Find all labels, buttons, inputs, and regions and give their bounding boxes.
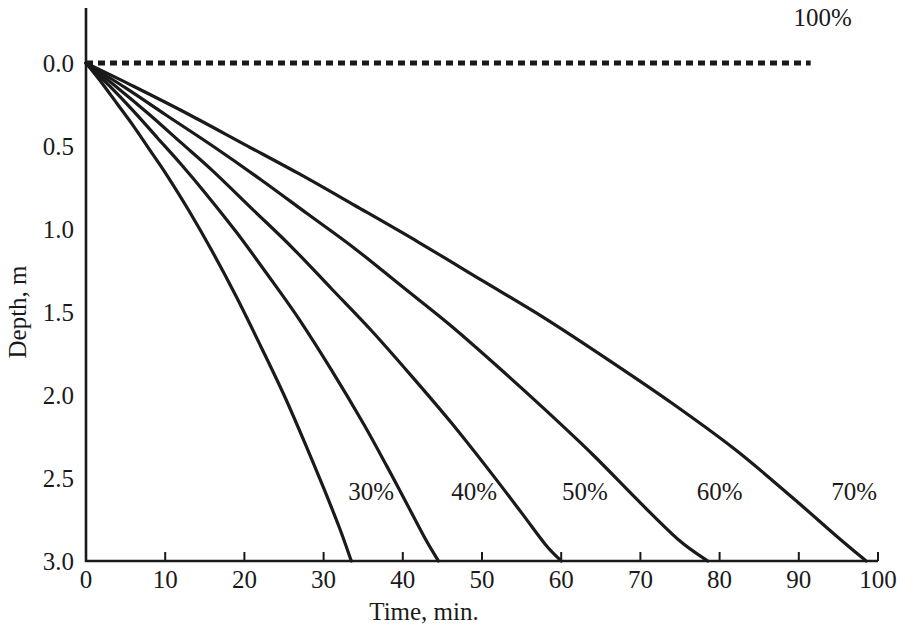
x-axis-ticks	[165, 552, 878, 561]
y-tick-label: 0.5	[43, 133, 74, 160]
chart-page: 0102030405060708090100 0.00.51.01.52.02.…	[0, 0, 914, 636]
x-tick-label: 50	[470, 566, 495, 593]
series-annotations: 30%40%50%60%70%100%	[348, 4, 877, 506]
x-tick-label: 90	[786, 566, 811, 593]
y-tick-label: 1.5	[43, 299, 74, 326]
curve-30pct	[86, 63, 351, 561]
x-tick-label: 80	[707, 566, 732, 593]
series-label-70pct: 70%	[831, 478, 877, 505]
x-tick-label: 60	[549, 566, 574, 593]
series-label-50pct: 50%	[562, 478, 608, 505]
x-axis-tick-labels: 0102030405060708090100	[80, 566, 897, 593]
y-tick-label: 1.0	[43, 216, 74, 243]
y-tick-label: 3.0	[43, 548, 74, 575]
depth-vs-time-chart: 0102030405060708090100 0.00.51.01.52.02.…	[0, 0, 914, 636]
y-tick-label: 2.0	[43, 382, 74, 409]
series-label-100pct: 100%	[793, 4, 851, 31]
x-tick-label: 70	[628, 566, 653, 593]
x-tick-label: 40	[390, 566, 415, 593]
x-tick-label: 30	[311, 566, 336, 593]
y-axis-tick-labels: 0.00.51.01.52.02.53.0	[43, 50, 74, 575]
x-tick-label: 0	[80, 566, 93, 593]
x-axis-title: Time, min.	[369, 598, 479, 625]
series-label-40pct: 40%	[451, 478, 497, 505]
y-tick-label: 0.0	[43, 50, 74, 77]
x-tick-label: 10	[153, 566, 178, 593]
series-label-60pct: 60%	[697, 478, 743, 505]
x-tick-label: 20	[232, 566, 257, 593]
y-axis-title: Depth, m	[4, 265, 31, 359]
x-tick-label: 100	[859, 566, 897, 593]
series-label-30pct: 30%	[348, 478, 394, 505]
y-tick-label: 2.5	[43, 465, 74, 492]
